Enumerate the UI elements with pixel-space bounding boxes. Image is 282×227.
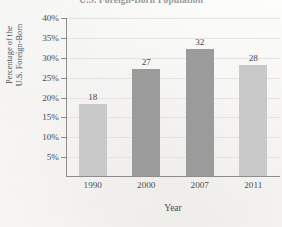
bar: 181990 xyxy=(79,104,107,176)
y-tick-mark xyxy=(61,58,66,59)
y-tick-label: 10% xyxy=(42,132,59,142)
y-tick-label: 30% xyxy=(42,53,59,63)
bar: 272000 xyxy=(132,69,160,176)
y-tick-label: 25% xyxy=(42,73,59,83)
y-tick-label: 20% xyxy=(42,93,59,103)
bar-value-label: 18 xyxy=(88,92,97,102)
bar-value-label: 28 xyxy=(249,53,258,63)
bar: 322007 xyxy=(186,49,214,176)
x-tick-label: 2007 xyxy=(191,180,209,190)
y-tick-mark xyxy=(61,38,66,39)
gridline xyxy=(67,18,280,19)
gridline xyxy=(67,38,280,39)
bar-value-label: 32 xyxy=(195,37,204,47)
y-tick-mark xyxy=(61,98,66,99)
y-tick-label: 35% xyxy=(42,33,59,43)
y-tick-mark xyxy=(61,137,66,138)
x-tick-label: 2011 xyxy=(244,180,262,190)
y-axis-title-line-1: Percentage of the xyxy=(5,0,15,115)
y-tick-label: 40% xyxy=(42,13,59,23)
y-tick-label: 15% xyxy=(42,112,59,122)
x-axis-line xyxy=(66,176,280,177)
bar-chart-figure: U.S. Foreign-Born Population Percentage … xyxy=(0,0,282,227)
y-tick-mark xyxy=(61,18,66,19)
y-tick-label: 5% xyxy=(47,152,59,162)
y-tick-mark xyxy=(61,157,66,158)
y-tick-mark xyxy=(61,78,66,79)
chart-title: U.S. Foreign-Born Population xyxy=(0,0,282,5)
y-axis-title: Percentage of the U.S. Foreign-Born xyxy=(5,0,25,115)
x-tick-label: 1990 xyxy=(84,180,102,190)
bar: 282011 xyxy=(239,65,267,176)
y-axis-title-line-2: U.S. Foreign-Born xyxy=(15,0,25,115)
plot-area: 5%10%15%20%25%30%35%40% 1819902720003220… xyxy=(66,18,280,177)
y-tick-mark xyxy=(61,117,66,118)
x-axis-title: Year xyxy=(66,203,280,213)
bar-value-label: 27 xyxy=(142,57,151,67)
x-tick-label: 2000 xyxy=(137,180,155,190)
